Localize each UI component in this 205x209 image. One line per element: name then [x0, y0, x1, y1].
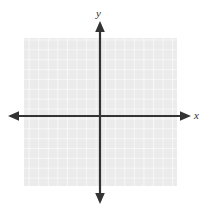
y-axis-top-arrowhead — [95, 21, 105, 32]
x-axis-right-arrowhead — [180, 111, 191, 121]
coordinate-plane-svg — [0, 0, 205, 209]
coordinate-plane-figure: y x — [0, 0, 205, 209]
y-axis-bottom-arrowhead — [95, 193, 105, 204]
y-axis-label: y — [96, 8, 101, 19]
x-axis-label: x — [194, 110, 199, 121]
x-axis-left-arrowhead — [8, 111, 19, 121]
